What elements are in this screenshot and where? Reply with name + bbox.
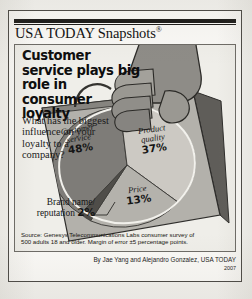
masthead-brand: USA TODAY Snapshots [15, 25, 156, 41]
label-brand-name-pct: 2% [77, 206, 95, 218]
byline: By Jae Yang and Alejandro Gonzalez, USA … [14, 256, 236, 271]
masthead-rule-heavy [14, 19, 236, 23]
headline: Customer service plays big role in consu… [22, 49, 140, 122]
source-note: Source: Genesys Telecommunications Labs … [21, 232, 201, 246]
registered-mark-icon: ® [156, 25, 162, 34]
byline-credit: By Jae Yang and Alejandro Gonzalez, USA … [93, 256, 236, 263]
label-brand-name: Brand name/ reputation 2% [21, 197, 95, 218]
snapshot-page: USA TODAY Snapshots® [0, 0, 252, 299]
byline-year: 2007 [14, 265, 236, 271]
snapshot-panel: Customer service plays big role in consu… [14, 44, 236, 252]
masthead-title: USA TODAY Snapshots® [15, 25, 235, 42]
